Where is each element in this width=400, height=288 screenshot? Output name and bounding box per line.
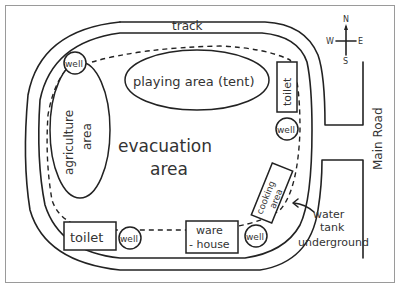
track-label: track xyxy=(172,19,203,33)
toilet-top-right-label: toilet xyxy=(281,77,294,106)
playing-area-label: playing area (tent) xyxy=(133,74,254,89)
compass-s: S xyxy=(343,57,348,66)
agriculture-label-line1: agriculture xyxy=(62,110,76,175)
well-bottom-right-label: well xyxy=(246,232,264,242)
north-arrow-icon xyxy=(344,24,348,30)
evacuation-site-map: track playing area (tent) agriculture ar… xyxy=(0,0,400,288)
compass-n: N xyxy=(343,15,349,24)
cooking-area: cooking area xyxy=(251,163,292,223)
annotation-underground: underground xyxy=(298,236,369,249)
warehouse-label-line2: - house xyxy=(189,238,230,251)
compass-w: W xyxy=(326,37,334,46)
well-bottom-left-label: well xyxy=(120,234,138,244)
warehouse-label-line1: ware xyxy=(196,224,223,237)
annotation-tank: tank xyxy=(320,221,345,234)
compass-e: E xyxy=(358,37,363,46)
agriculture-label-line2: area xyxy=(80,123,94,150)
main-road-label: Main Road xyxy=(371,107,385,170)
well-right-label: well xyxy=(277,125,295,135)
annotation-water: water xyxy=(313,208,345,221)
annotation-arrow xyxy=(294,203,314,212)
evacuation-area-label-line2: area xyxy=(150,159,188,179)
compass-icon: N S E W xyxy=(326,15,363,66)
evacuation-area-label-line1: evacuation xyxy=(118,136,212,156)
well-top-left-label: well xyxy=(65,59,83,69)
toilet-bottom-left-label: toilet xyxy=(70,230,103,245)
